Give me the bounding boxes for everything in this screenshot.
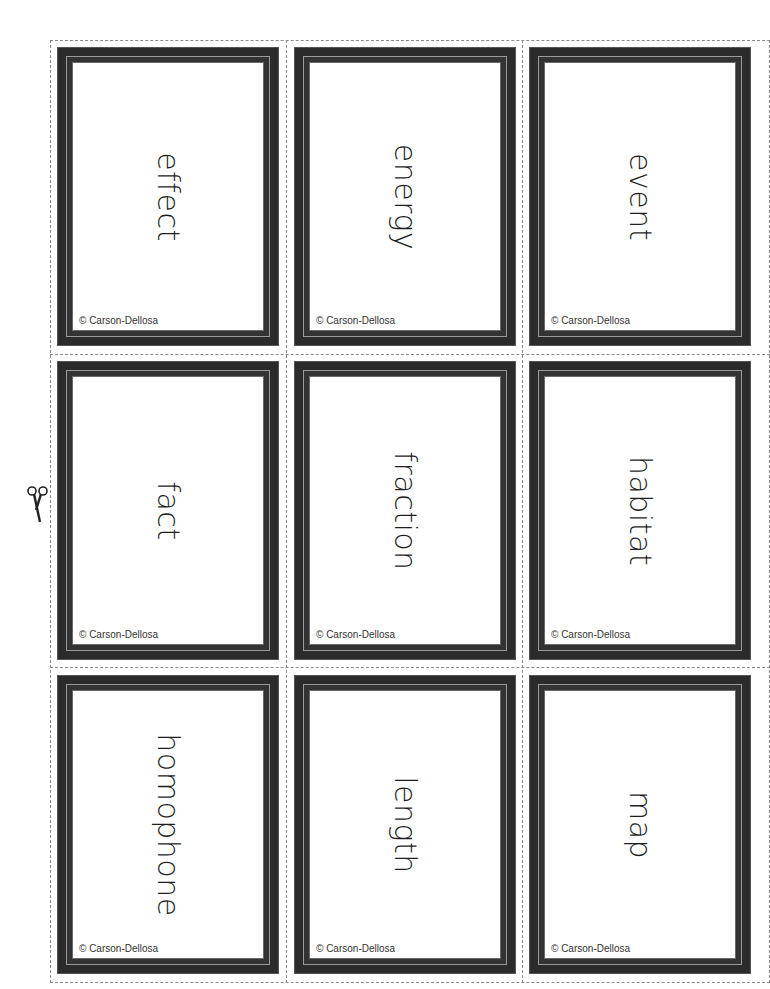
card-word: homophone	[151, 733, 186, 916]
copyright-notice: © Carson-Dellosa	[551, 629, 630, 640]
card-word: event	[623, 153, 658, 241]
card-face: fraction © Carson-Dellosa	[309, 376, 501, 645]
copyright-notice: © Carson-Dellosa	[316, 629, 395, 640]
vertical-cut-line	[286, 40, 287, 983]
card-face: event © Carson-Dellosa	[544, 62, 736, 331]
card-word: fact	[151, 481, 186, 540]
flashcard: homophone © Carson-Dellosa	[57, 675, 279, 974]
flashcard: fact © Carson-Dellosa	[57, 361, 279, 660]
card-face: energy © Carson-Dellosa	[309, 62, 501, 331]
card-word: fraction	[388, 451, 423, 570]
horizontal-cut-line	[50, 667, 770, 668]
flashcard: fraction © Carson-Dellosa	[294, 361, 516, 660]
copyright-notice: © Carson-Dellosa	[316, 943, 395, 954]
card-word: length	[388, 776, 423, 874]
copyright-notice: © Carson-Dellosa	[79, 315, 158, 326]
flashcard: habitat © Carson-Dellosa	[529, 361, 751, 660]
flashcard: event © Carson-Dellosa	[529, 47, 751, 346]
card-face: fact © Carson-Dellosa	[72, 376, 264, 645]
card-word: map	[623, 790, 658, 858]
copyright-notice: © Carson-Dellosa	[316, 315, 395, 326]
horizontal-cut-line	[50, 354, 770, 355]
card-word: habitat	[623, 455, 658, 565]
flashcard: energy © Carson-Dellosa	[294, 47, 516, 346]
card-face: homophone © Carson-Dellosa	[72, 690, 264, 959]
card-face: habitat © Carson-Dellosa	[544, 376, 736, 645]
flashcard: effect © Carson-Dellosa	[57, 47, 279, 346]
copyright-notice: © Carson-Dellosa	[79, 629, 158, 640]
copyright-notice: © Carson-Dellosa	[551, 943, 630, 954]
flashcard: length © Carson-Dellosa	[294, 675, 516, 974]
card-face: map © Carson-Dellosa	[544, 690, 736, 959]
copyright-notice: © Carson-Dellosa	[551, 315, 630, 326]
flashcard: map © Carson-Dellosa	[529, 675, 751, 974]
card-word: energy	[388, 143, 423, 250]
card-face: length © Carson-Dellosa	[309, 690, 501, 959]
vertical-cut-line	[522, 40, 523, 983]
scissors-icon	[26, 484, 48, 524]
copyright-notice: © Carson-Dellosa	[79, 943, 158, 954]
card-face: effect © Carson-Dellosa	[72, 62, 264, 331]
card-word: effect	[151, 152, 186, 241]
